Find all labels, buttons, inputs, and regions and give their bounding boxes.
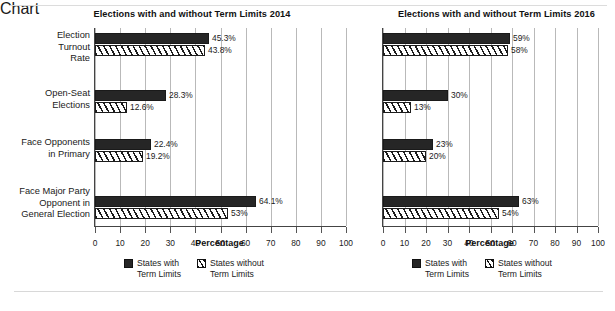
- legend-item-with-term-limits: States with Term Limits: [124, 258, 181, 280]
- bar-with-term-limits: [383, 196, 519, 207]
- x-tick: [405, 227, 406, 233]
- category-label-line: General Election: [0, 209, 90, 221]
- bar-value-label: 23%: [436, 139, 453, 150]
- gridline: [598, 28, 599, 226]
- bar-value-label: 45.3%: [212, 33, 236, 44]
- category-label-face-opponents-in-primary: Face Opponents in Primary: [0, 137, 90, 160]
- legend-swatch-solid-icon: [124, 259, 133, 268]
- gridline: [321, 28, 322, 226]
- chart-title-2014: Elections with and without Term Limits 2…: [0, 9, 350, 19]
- legend-swatch-hatch-icon: [197, 259, 206, 268]
- legend-swatch-solid-icon: [412, 259, 421, 268]
- bar-without-term-limits: [95, 151, 143, 162]
- bar-value-label: 43.8%: [208, 45, 232, 56]
- legend-label: States with Term Limits: [137, 258, 181, 280]
- bar-value-label: 13%: [414, 102, 431, 113]
- bar-with-term-limits: [95, 196, 256, 207]
- bar-value-label: 53%: [231, 208, 248, 219]
- x-axis-title-2014: Percentage: [94, 238, 345, 248]
- gridline: [577, 28, 578, 226]
- x-tick: [598, 227, 599, 233]
- x-tick: [491, 227, 492, 233]
- bar-without-term-limits: [383, 102, 411, 113]
- bar-value-label: 19.2%: [146, 151, 170, 162]
- plot-area-2016: 0 10 20 30 40 50 60 70 80 90 100 59% 58%…: [382, 28, 598, 226]
- bar-without-term-limits: [95, 102, 127, 113]
- gridline: [346, 28, 347, 226]
- bar-with-term-limits: [95, 139, 151, 150]
- legend-item-without-term-limits: States without Term Limits: [485, 258, 552, 280]
- bar-value-label: 63%: [522, 196, 539, 207]
- x-tick: [296, 227, 297, 233]
- bar-value-label: 12.6%: [130, 102, 154, 113]
- x-tick: [195, 227, 196, 233]
- bar-without-term-limits: [383, 45, 508, 56]
- x-tick: [120, 227, 121, 233]
- category-label-line: Election: [0, 30, 90, 42]
- chart-2016: Elections with and without Term Limits 2…: [350, 0, 615, 290]
- category-label-line: in Primary: [0, 149, 90, 161]
- bar-value-label: 28.3%: [169, 90, 193, 101]
- bar-value-label: 64.1%: [259, 196, 283, 207]
- bar-with-term-limits: [383, 139, 433, 150]
- x-tick: [555, 227, 556, 233]
- bar-with-term-limits: [95, 33, 209, 44]
- x-tick: [448, 227, 449, 233]
- x-tick: [383, 227, 384, 233]
- legend-item-with-term-limits: States with Term Limits: [412, 258, 469, 280]
- category-label-face-major-party-opponent: Face Major Party Opponent in General Ele…: [0, 186, 90, 221]
- x-tick: [577, 227, 578, 233]
- gridline: [296, 28, 297, 226]
- category-label-open-seat-elections: Open-Seat Elections: [0, 88, 90, 111]
- bar-without-term-limits: [383, 151, 426, 162]
- legend-label: States with Term Limits: [425, 258, 469, 280]
- category-label-line: Elections: [0, 100, 90, 112]
- category-label-line: Opponent in: [0, 198, 90, 210]
- category-label-line: Open-Seat: [0, 88, 90, 100]
- gridline: [555, 28, 556, 226]
- category-label-line: Rate: [0, 53, 90, 65]
- x-tick: [170, 227, 171, 233]
- bar-value-label: 22.4%: [154, 139, 178, 150]
- chart-title-2016: Elections with and without Term Limits 2…: [350, 9, 615, 19]
- x-tick: [145, 227, 146, 233]
- x-tick: [426, 227, 427, 233]
- x-tick: [246, 227, 247, 233]
- bar-with-term-limits: [95, 90, 166, 101]
- bar-value-label: 54%: [502, 208, 519, 219]
- bar-without-term-limits: [95, 45, 205, 56]
- legend-item-without-term-limits: States without Term Limits: [197, 258, 264, 280]
- legend-2014: States with Term Limits States without T…: [124, 258, 264, 280]
- bar-with-term-limits: [383, 90, 448, 101]
- legend-2016: States with Term Limits States without T…: [412, 258, 552, 280]
- bar-without-term-limits: [383, 208, 499, 219]
- bar-without-term-limits: [95, 208, 228, 219]
- x-tick: [469, 227, 470, 233]
- legend-swatch-hatch-icon: [485, 259, 494, 268]
- x-tick: [221, 227, 222, 233]
- x-tick: [512, 227, 513, 233]
- bar-value-label: 20%: [429, 151, 446, 162]
- page-rule-bottom: [14, 291, 603, 292]
- bar-value-label: 58%: [511, 45, 528, 56]
- bar-with-term-limits: [383, 33, 510, 44]
- x-tick: [321, 227, 322, 233]
- x-tick: [346, 227, 347, 233]
- x-tick: [534, 227, 535, 233]
- legend-label: States without Term Limits: [498, 258, 552, 280]
- category-label-line: Turnout: [0, 42, 90, 54]
- bar-value-label: 59%: [513, 33, 530, 44]
- legend-label: States without Term Limits: [210, 258, 264, 280]
- bar-value-label: 30%: [451, 90, 468, 101]
- chart-2014: Elections with and without Term Limits 2…: [0, 0, 350, 290]
- category-label-election-turnout-rate: Election Turnout Rate: [0, 30, 90, 65]
- x-axis-title-2016: Percentage: [382, 238, 597, 248]
- figure-page: Elections with and without Term Limits 2…: [0, 0, 615, 311]
- category-label-line: Face Major Party: [0, 186, 90, 198]
- plot-area-2014: 0 10 20 30 40 50 60 70 80 90 100 45.3% 4…: [94, 28, 346, 226]
- x-tick: [271, 227, 272, 233]
- x-tick: [95, 227, 96, 233]
- category-label-line: Face Opponents: [0, 137, 90, 149]
